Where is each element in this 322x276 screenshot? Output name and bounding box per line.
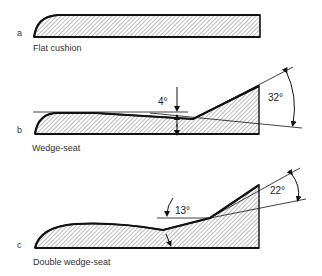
angle-32-label: 32° <box>268 92 283 103</box>
angle-22-label: 22° <box>270 185 285 196</box>
angle-4-label: 4° <box>158 96 168 107</box>
figure-b-caption: Wedge-seat <box>32 143 80 153</box>
figure-c-letter: c <box>17 240 22 250</box>
figure-b-letter: b <box>17 125 22 135</box>
flat-cushion-shape <box>34 15 260 37</box>
cushion-diagram <box>0 0 322 276</box>
figure-a-caption: Flat cushion <box>33 43 82 53</box>
figure-c-caption: Double wedge-seat <box>33 257 111 267</box>
double-wedge-seat-shape <box>35 168 306 248</box>
angle-13-label: 13° <box>175 205 190 216</box>
figure-a-letter: a <box>17 28 22 38</box>
